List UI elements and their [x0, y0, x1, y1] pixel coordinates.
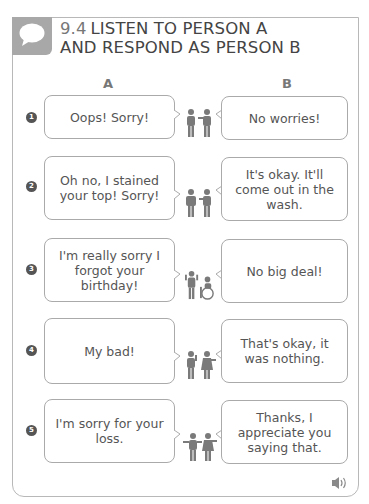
title-line-2: AND RESPOND AS PERSON B: [60, 38, 301, 57]
speech-bubble-b: Thanks, I appreciate you saying that.: [221, 400, 348, 464]
people-wheelchair-icon: [178, 270, 222, 300]
people-figures-icon: [178, 108, 222, 138]
header-tab: [12, 17, 52, 55]
title-line-1: LISTEN TO PERSON A: [91, 19, 268, 38]
people-figures-icon: [178, 432, 222, 462]
speech-bubble-icon: [18, 22, 46, 48]
speech-bubble-a: Oops! Sorry!: [44, 95, 175, 139]
row-number-badge: 1: [26, 112, 37, 123]
row-number-badge: 3: [26, 264, 37, 275]
speech-bubble-a: I'm sorry for your loss.: [44, 399, 175, 463]
column-header-a: A: [103, 76, 113, 91]
speaker-icon[interactable]: [331, 476, 349, 490]
speech-bubble-b: No worries!: [221, 96, 348, 140]
speech-bubble-a: I'm really sorry I forgot your birthday!: [44, 238, 175, 302]
people-figures-icon: [178, 350, 222, 380]
speech-bubble-b: It's okay. It'll come out in the wash.: [221, 157, 348, 221]
speech-bubble-b: That's okay, it was nothing.: [221, 319, 348, 383]
speech-bubble-b: No big deal!: [221, 239, 348, 303]
people-figures-icon: [178, 188, 222, 218]
speech-bubble-a: Oh no, I stained your top! Sorry!: [44, 156, 175, 220]
row-number-badge: 4: [26, 345, 37, 356]
column-header-b: B: [282, 76, 292, 91]
exercise-title: 9.4LISTEN TO PERSON A AND RESPOND AS PER…: [60, 19, 301, 57]
row-number-badge: 5: [26, 425, 37, 436]
exercise-number: 9.4: [60, 19, 87, 38]
row-number-badge: 2: [26, 181, 37, 192]
speech-bubble-a: My bad!: [44, 318, 175, 384]
